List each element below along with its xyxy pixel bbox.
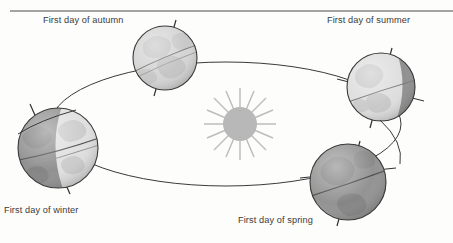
earth-spring-surface	[306, 142, 390, 224]
label-first-day-of-autumn: First day of autumn	[43, 15, 124, 26]
earth-autumn-surface	[130, 24, 205, 94]
label-first-day-of-summer: First day of summer	[327, 15, 410, 26]
earth-winter-surface	[14, 106, 102, 192]
earth-winter	[14, 104, 102, 194]
label-first-day-of-winter: First day of winter	[4, 205, 78, 216]
orbit-front-segment-summer	[380, 120, 401, 164]
label-first-day-of-spring: First day of spring	[238, 215, 313, 226]
earth-summer	[337, 48, 424, 128]
earth-summer-surface	[344, 48, 420, 126]
earth-spring	[300, 141, 396, 226]
sun-disc	[223, 107, 257, 141]
seasons-diagram-figure: First day of autumn First day of summer …	[0, 0, 453, 243]
earth-autumn	[130, 20, 205, 96]
sun-graphic	[204, 88, 276, 160]
